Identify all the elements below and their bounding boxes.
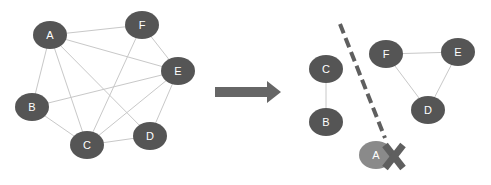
node-label: A — [46, 29, 54, 41]
node-label: F — [383, 48, 390, 60]
right-node-f: F — [369, 40, 403, 68]
node-label: E — [454, 46, 461, 58]
right-arrow-icon — [215, 81, 281, 103]
right-node-d: D — [411, 96, 445, 124]
right-node-e: E — [441, 38, 475, 66]
node-label: B — [28, 101, 35, 113]
node-label: D — [146, 130, 154, 142]
node-label: A — [372, 149, 380, 161]
left-edge-a-c — [50, 35, 87, 145]
left-graph-nodes: AFEBCD — [15, 11, 195, 159]
left-node-d: D — [133, 122, 167, 150]
graph-partition-diagram: AFEBCD CBFEDA — [0, 0, 491, 185]
node-label: D — [424, 104, 432, 116]
right-node-c: C — [309, 55, 343, 83]
left-node-f: F — [125, 11, 159, 39]
node-label: C — [83, 139, 91, 151]
left-node-e: E — [161, 57, 195, 85]
left-node-b: B — [15, 93, 49, 121]
node-label: F — [139, 19, 146, 31]
cut-line — [340, 24, 385, 138]
left-edge-a-e — [50, 35, 178, 71]
node-label: E — [174, 65, 181, 77]
right-node-b: B — [309, 108, 343, 136]
left-node-c: C — [70, 131, 104, 159]
node-label: B — [322, 116, 329, 128]
left-edge-a-d — [50, 35, 150, 136]
left-node-a: A — [33, 21, 67, 49]
left-edge-f-c — [87, 25, 142, 145]
node-label: C — [322, 63, 330, 75]
